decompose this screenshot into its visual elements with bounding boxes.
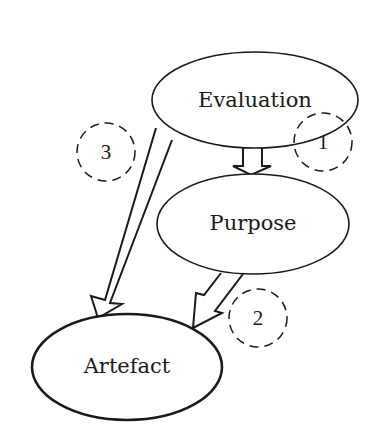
node-artefact: Artefact: [32, 314, 222, 420]
edge-label-3: 3: [77, 123, 135, 181]
diagram-canvas: Evaluation Purpose Artefact 1 2 3: [0, 0, 371, 440]
node-purpose-label: Purpose: [210, 211, 297, 235]
node-artefact-label: Artefact: [83, 354, 171, 378]
edge-label-2: 2: [229, 289, 287, 347]
edge-label-3-text: 3: [101, 140, 112, 164]
arrow-evaluation-to-purpose: [233, 146, 271, 175]
edge-label-2-text: 2: [253, 306, 264, 330]
edge-label-1-text: 1: [318, 130, 329, 154]
node-evaluation-label: Evaluation: [198, 88, 312, 112]
node-purpose: Purpose: [157, 174, 349, 274]
